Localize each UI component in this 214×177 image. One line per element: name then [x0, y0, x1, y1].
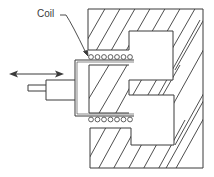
diagram-canvas: Coil — [0, 0, 214, 177]
coil-leader-line — [60, 15, 88, 56]
output-shaft — [28, 80, 75, 100]
magnet-body — [70, 0, 214, 175]
motion-arrow-icon — [9, 71, 64, 78]
center-pole — [85, 55, 145, 120]
coil-windings-top — [89, 55, 133, 60]
coil-label: Coil — [37, 9, 54, 19]
coil-windings-bottom — [89, 117, 133, 122]
actuator-diagram — [0, 0, 214, 177]
